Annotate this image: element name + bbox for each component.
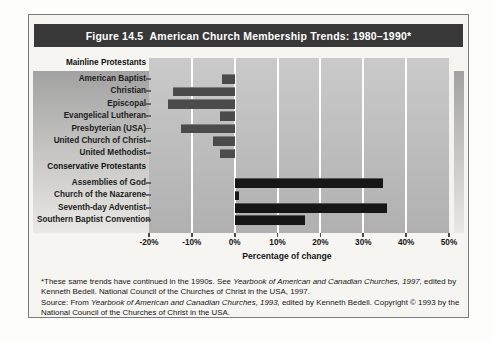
group-header-mainline-protestants: Mainline Protestants (37, 57, 146, 69)
x-tick-label-10: 10% (258, 238, 298, 247)
category-label-american-baptist: American Baptist (37, 73, 146, 85)
bar-evangelical-lutheran (220, 111, 235, 121)
category-tick-assemblies-of-god (146, 182, 151, 184)
category-tick-christian (146, 90, 151, 92)
category-label-presbyterian-usa: Presbyterian (USA) (37, 123, 146, 135)
bar-assemblies-of-god (235, 178, 383, 188)
category-tick-presbyterian-usa (146, 128, 151, 130)
x-tick-label-40: 40% (386, 238, 426, 247)
footnote-paragraph-2: Source: From Yearbook of American and Ca… (41, 298, 467, 319)
x-tick-10 (277, 233, 279, 237)
x-tick-20 (320, 233, 322, 237)
bar-church-of-the-nazarene (235, 191, 239, 201)
category-tick-seventh-day-adventist (146, 207, 151, 209)
category-tick-evangelical-lutheran (146, 115, 151, 117)
bar-seventh-day-adventist (235, 203, 387, 213)
category-label-christian: Christian (37, 85, 146, 97)
x-tick-40 (405, 233, 407, 237)
gridline--10 (191, 58, 193, 233)
x-axis-title: Percentage of change (137, 251, 437, 261)
bar-presbyterian-usa (181, 124, 235, 134)
category-tick-episcopal (146, 103, 151, 105)
category-tick-church-of-the-nazarene (146, 194, 151, 196)
x-tick-label-50: 50% (429, 238, 469, 247)
x-tick-50 (448, 233, 450, 237)
category-label-evangelical-lutheran: Evangelical Lutheran (37, 110, 146, 122)
gridline-40 (405, 58, 407, 233)
plot-right-gap (449, 58, 454, 233)
figure-box: Figure 14.5 American Church Membership T… (28, 14, 469, 318)
bar-christian (173, 87, 235, 97)
category-label-united-methodist: United Methodist (37, 147, 146, 159)
x-tick--20 (148, 233, 150, 237)
bar-united-methodist (220, 149, 235, 159)
x-tick-30 (362, 233, 364, 237)
category-tick-american-baptist (146, 78, 151, 80)
x-tick-label--20: -20% (129, 238, 169, 247)
category-label-church-of-the-nazarene: Church of the Nazarene (37, 189, 146, 201)
group-header-conservative-protestants: Conservative Protestants (37, 161, 146, 173)
category-tick-united-church-of-christ (146, 140, 151, 142)
x-tick-label-20: 20% (300, 238, 340, 247)
category-tick-united-methodist (146, 152, 151, 154)
x-tick--10 (191, 233, 193, 237)
footnote: *These same trends have continued in the… (41, 277, 467, 319)
bar-southern-baptist-convention (235, 215, 306, 225)
category-label-united-church-of-christ: United Church of Christ (37, 135, 146, 147)
category-label-seventh-day-adventist: Seventh-day Adventist (37, 202, 146, 214)
bar-episcopal (168, 99, 234, 109)
category-label-episcopal: Episcopal (37, 98, 146, 110)
category-tick-southern-baptist-convention (146, 219, 151, 221)
bar-united-church-of-christ (213, 136, 234, 146)
figure-title: Figure 14.5 American Church Membership T… (86, 30, 412, 42)
category-label-southern-baptist-convention: Southern Baptist Convention (37, 214, 146, 226)
x-tick-label-30: 30% (343, 238, 383, 247)
footnote-paragraph-1: *These same trends have continued in the… (41, 277, 467, 298)
category-label-assemblies-of-god: Assemblies of God (37, 177, 146, 189)
x-tick-0 (234, 233, 236, 237)
x-tick-label--10: -10% (172, 238, 212, 247)
x-tick-label-0: 0% (215, 238, 255, 247)
bar-american-baptist (222, 74, 235, 84)
figure-title-bar: Figure 14.5 American Church Membership T… (34, 24, 463, 47)
